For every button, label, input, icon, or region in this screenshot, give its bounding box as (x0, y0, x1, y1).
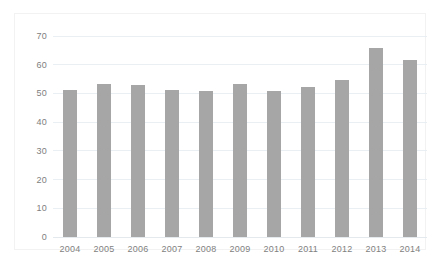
bar-group: 2010 (257, 36, 291, 237)
bar-group: 2012 (325, 36, 359, 237)
bar-group: 2014 (393, 36, 427, 237)
y-axis-tick-label: 50 (37, 88, 47, 98)
bar-group: 2013 (359, 36, 393, 237)
bar (131, 85, 145, 237)
bar (403, 60, 417, 237)
bar-group: 2007 (155, 36, 189, 237)
bar-group: 2005 (87, 36, 121, 237)
bar (165, 90, 179, 237)
bar (233, 84, 247, 237)
bar-group: 2011 (291, 36, 325, 237)
x-axis-tick-label: 2007 (162, 244, 183, 254)
x-axis-tick-label: 2013 (366, 244, 387, 254)
y-axis-tick-label: 30 (37, 146, 47, 156)
x-axis-tick-label: 2009 (230, 244, 251, 254)
y-axis-tick-label: 70 (37, 31, 47, 41)
x-axis-tick-label: 2004 (60, 244, 81, 254)
y-axis-tick-label: 20 (37, 175, 47, 185)
y-axis-tick-label: 10 (37, 203, 47, 213)
x-axis-tick-label: 2008 (196, 244, 217, 254)
bar (335, 80, 349, 237)
y-axis-tick-label: 0 (42, 232, 47, 242)
bar-group: 2009 (223, 36, 257, 237)
bar (97, 84, 111, 237)
x-axis-tick-label: 2005 (94, 244, 115, 254)
bar (369, 48, 383, 238)
bar-group: 2004 (53, 36, 87, 237)
bar-chart: 010203040506070 200420052006200720082009… (0, 0, 440, 263)
y-axis-tick-label: 40 (37, 117, 47, 127)
plot-area: 010203040506070 200420052006200720082009… (53, 36, 427, 237)
x-axis-tick-label: 2010 (264, 244, 285, 254)
x-axis-tick-label: 2011 (298, 244, 318, 254)
x-axis-tick-label: 2006 (128, 244, 149, 254)
bar (199, 91, 213, 237)
x-axis-tick-label: 2014 (400, 244, 421, 254)
y-axis-tick-label: 60 (37, 60, 47, 70)
bar-group: 2006 (121, 36, 155, 237)
chart-plot-frame: 010203040506070 200420052006200720082009… (14, 13, 426, 250)
bar-group: 2008 (189, 36, 223, 237)
x-axis-tick-label: 2012 (332, 244, 353, 254)
bar (301, 87, 315, 237)
bar (63, 90, 77, 237)
bars: 2004200520062007200820092010201120122013… (53, 36, 427, 237)
bar (267, 91, 281, 237)
